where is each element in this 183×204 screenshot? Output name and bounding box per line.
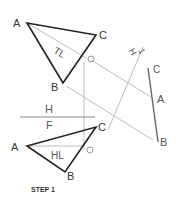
label-c-front: C — [98, 121, 106, 133]
label-a-top: A — [13, 17, 21, 29]
label-hl: HL — [51, 150, 64, 161]
label-fold-f: F — [46, 119, 53, 131]
label-b-aux: B — [160, 136, 167, 148]
point-o-marker-top — [88, 56, 94, 62]
label-a-front: A — [11, 141, 19, 153]
diagram-svg: A C B TL H F H 1 C A B A C B HL O O STEP… — [0, 0, 183, 204]
label-fold-h1-1: 1 — [136, 46, 147, 55]
projector-o-to-a-aux — [91, 60, 151, 97]
descriptive-geometry-diagram: A C B TL H F H 1 C A B A C B HL O O STEP… — [0, 0, 183, 204]
point-o-marker-front — [87, 147, 93, 153]
label-tl: TL — [52, 45, 68, 61]
label-b-front: B — [67, 170, 74, 182]
label-fold-h: H — [45, 103, 53, 115]
label-b-top: B — [51, 81, 58, 93]
label-a-aux: A — [157, 93, 165, 105]
label-c-top: C — [99, 29, 107, 41]
construction-lines — [20, 23, 153, 150]
label-c-aux: C — [153, 64, 160, 75]
edge-view-aux — [148, 68, 158, 142]
step-caption: STEP 1 — [31, 186, 55, 193]
